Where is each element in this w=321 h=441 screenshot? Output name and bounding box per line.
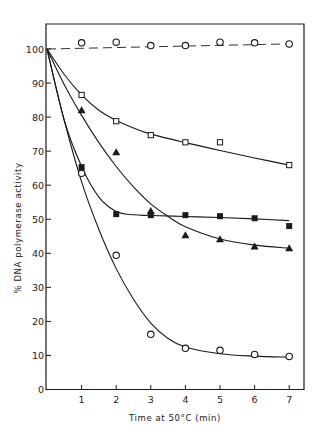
x-tick-label: 6 [252, 394, 258, 405]
x-tick-label: 7 [286, 394, 292, 405]
filled-square-marker [79, 164, 85, 170]
x-axis-ticks: 1234567 [79, 385, 293, 405]
y-axis-title: % DNA polymerase activity [13, 162, 23, 293]
open-circle-marker [217, 347, 223, 353]
open-circle-marker [251, 351, 257, 357]
x-tick-label: 2 [113, 394, 119, 405]
x-tick-label: 1 [79, 394, 85, 405]
y-tick-label: 90 [32, 78, 44, 89]
y-tick-label: 100 [26, 44, 44, 55]
y-axis-ticks: 0102030405060708090100 [26, 44, 51, 396]
open-circle-marker [113, 252, 119, 258]
open-circle-marker [148, 42, 154, 48]
open-circle-marker [251, 40, 257, 46]
x-tick-label: 4 [182, 394, 188, 405]
open-square-marker [114, 119, 119, 124]
open-square-marker [287, 163, 292, 168]
open-circle-marker [286, 41, 292, 47]
x-tick-label: 5 [217, 394, 223, 405]
filled-square-marker [182, 212, 188, 218]
plot-frame [46, 24, 304, 390]
filled-square-marker [113, 211, 119, 217]
filled-square-marker [148, 212, 154, 218]
filled-triangle-marker [112, 148, 120, 155]
open-circle-marker [148, 331, 154, 337]
filled-square-marker [217, 213, 223, 219]
y-tick-label: 80 [32, 112, 44, 123]
y-tick-label: 20 [32, 316, 44, 327]
filled-triangle-marker [216, 235, 224, 242]
plot-svg: 1234567 0102030405060708090100 Time at 5… [0, 0, 321, 441]
fit-curve [47, 49, 289, 221]
chart: 1234567 0102030405060708090100 Time at 5… [0, 0, 321, 441]
plot-border [46, 24, 304, 390]
open-square-marker [79, 92, 84, 97]
open-circle-marker [78, 170, 84, 176]
fit-curves [47, 44, 289, 357]
open-square-marker [183, 140, 188, 145]
x-axis-title: Time at 50°C (min) [128, 413, 221, 423]
y-tick-label: 40 [32, 248, 44, 259]
open-square-marker [217, 140, 222, 145]
y-tick-label: 0 [38, 384, 44, 395]
data-markers [78, 39, 294, 360]
y-tick-label: 60 [32, 180, 44, 191]
filled-triangle-marker [181, 231, 189, 238]
open-circle-marker [217, 39, 223, 45]
y-tick-label: 70 [32, 146, 44, 157]
filled-square-marker [286, 223, 292, 229]
open-circle-marker [182, 42, 188, 48]
open-square-marker [148, 133, 153, 138]
y-tick-label: 10 [32, 350, 44, 361]
open-circle-marker [286, 353, 292, 359]
x-tick-label: 3 [148, 394, 154, 405]
y-tick-label: 50 [32, 214, 44, 225]
y-tick-label: 30 [32, 282, 44, 293]
open-circle-marker [78, 40, 84, 46]
open-circle-marker [182, 345, 188, 351]
filled-square-marker [252, 215, 258, 221]
fit-curve [47, 49, 289, 165]
open-circle-marker [113, 39, 119, 45]
